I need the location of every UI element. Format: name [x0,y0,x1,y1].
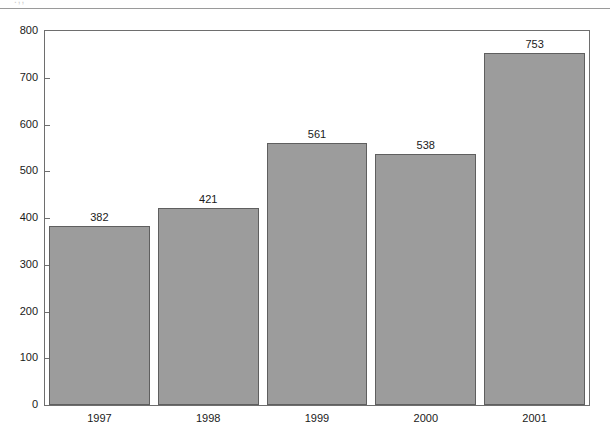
y-axis-tick-label: 400 [2,211,38,223]
bar-series: 382421561538753 [45,31,589,405]
cropped-title-fragment: .,, [14,0,25,5]
bar-slot: 561 [263,31,372,405]
y-axis-tick-label: 300 [2,258,38,270]
x-axis: 19971998199920002001 [45,412,589,432]
x-axis-tick-label: 1998 [154,412,263,424]
bar-slot: 382 [45,31,154,405]
bar [375,154,476,406]
x-axis-tick-label: 2001 [480,412,589,424]
bar-slot: 538 [371,31,480,405]
x-axis-tick-label: 1997 [45,412,154,424]
bar-value-label: 753 [480,38,589,50]
x-axis-tick-label: 1999 [263,412,372,424]
y-axis-tick-label: 100 [2,351,38,363]
bar-slot: 753 [480,31,589,405]
y-axis-tick-label: 800 [2,24,38,36]
top-horizontal-rule [0,8,610,9]
bar-value-label: 382 [45,211,154,223]
bar-value-label: 538 [371,139,480,151]
y-axis-tick-label: 200 [2,305,38,317]
y-axis: 0100200300400500600700800 [0,30,38,406]
y-axis-tick-label: 500 [2,164,38,176]
bar [267,143,368,405]
bar [158,208,259,405]
y-axis-tick-label: 600 [2,118,38,130]
bar-value-label: 561 [263,128,372,140]
bar [49,226,150,405]
y-axis-tick-label: 0 [2,398,38,410]
bar-value-label: 421 [154,193,263,205]
bar [484,53,585,405]
bar-chart-figure: .,, 0100200300400500600700800 3824215615… [0,0,610,439]
bar-slot: 421 [154,31,263,405]
x-axis-tick-label: 2000 [371,412,480,424]
y-axis-tick-label: 700 [2,71,38,83]
